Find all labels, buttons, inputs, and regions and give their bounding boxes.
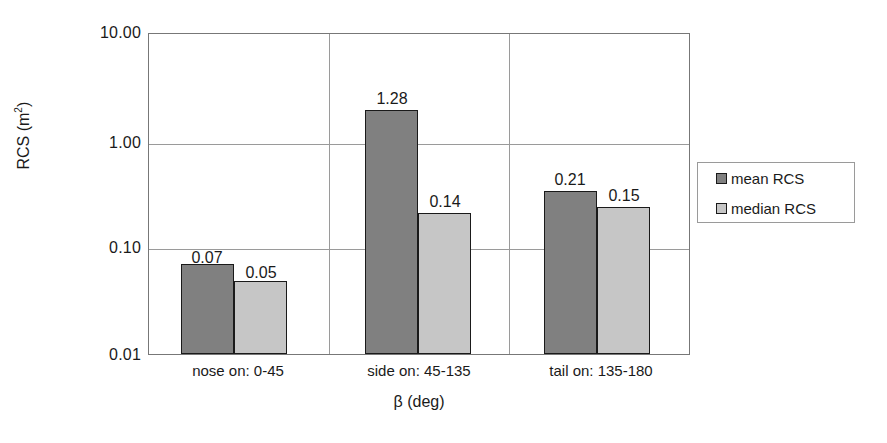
y-axis-title-base: RCS (m bbox=[15, 113, 32, 170]
value-label-mean-nose-on: 0.07 bbox=[191, 249, 222, 267]
y-axis-title-paren: ) bbox=[15, 102, 32, 107]
legend-swatch-median-icon bbox=[716, 203, 727, 214]
legend: mean RCS median RCS bbox=[697, 162, 855, 223]
y-tick-label-0.01: 0.01 bbox=[109, 346, 141, 364]
group-separator-2 bbox=[509, 34, 510, 354]
legend-swatch-mean-icon bbox=[716, 173, 727, 184]
x-tick-label-side-on: side on: 45-135 bbox=[367, 362, 470, 379]
bar-median-tail-on[interactable] bbox=[597, 207, 650, 354]
chart-canvas: RCS (m2) 10.00 1.00 0.10 0.01 0.07 0.05 … bbox=[0, 0, 887, 443]
value-label-median-tail-on: 0.15 bbox=[608, 187, 639, 205]
bar-mean-nose-on[interactable] bbox=[181, 264, 234, 354]
bar-median-nose-on[interactable] bbox=[234, 281, 287, 354]
x-axis-title: β (deg) bbox=[394, 393, 445, 411]
y-tick-label-1: 1.00 bbox=[109, 134, 141, 152]
y-axis-tick-labels: 10.00 1.00 0.10 0.01 bbox=[55, 0, 141, 443]
plot-area: 0.07 0.05 1.28 0.14 0.21 0.15 bbox=[148, 33, 690, 355]
value-label-median-nose-on: 0.05 bbox=[245, 264, 276, 282]
bar-mean-side-on[interactable] bbox=[365, 110, 418, 354]
value-label-mean-side-on: 1.28 bbox=[376, 90, 407, 108]
legend-item-mean-rcs[interactable]: mean RCS bbox=[698, 163, 854, 193]
value-label-mean-tail-on: 0.21 bbox=[554, 171, 585, 189]
y-axis-title-exponent: 2 bbox=[13, 107, 24, 113]
legend-label-mean-rcs: mean RCS bbox=[731, 170, 804, 187]
legend-label-median-rcs: median RCS bbox=[731, 200, 816, 217]
y-tick-label-10: 10.00 bbox=[100, 24, 141, 42]
bar-mean-tail-on[interactable] bbox=[544, 191, 597, 354]
gridline-1 bbox=[149, 144, 689, 145]
x-tick-label-tail-on: tail on: 135-180 bbox=[549, 362, 652, 379]
y-tick-label-0.10: 0.10 bbox=[109, 239, 141, 257]
value-label-median-side-on: 0.14 bbox=[429, 193, 460, 211]
legend-item-median-rcs[interactable]: median RCS bbox=[698, 193, 854, 223]
group-separator-1 bbox=[329, 34, 330, 354]
bar-median-side-on[interactable] bbox=[418, 213, 471, 354]
y-axis-title: RCS (m2) bbox=[13, 66, 32, 206]
x-tick-label-nose-on: nose on: 0-45 bbox=[192, 362, 284, 379]
